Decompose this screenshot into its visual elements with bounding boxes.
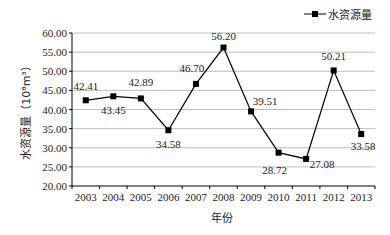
y-tick-label: 60.00 [42, 27, 67, 39]
y-tick-label: 40.00 [42, 104, 67, 116]
data-label: 27.08 [310, 158, 335, 170]
y-tick-label: 20.00 [42, 180, 67, 192]
data-point-marker [138, 95, 144, 101]
data-point-marker [303, 156, 309, 162]
x-tick-label: 2005 [130, 191, 153, 203]
x-axis-title: 年份 [211, 211, 233, 225]
y-tick-label: 50.00 [42, 65, 67, 77]
data-point-marker [276, 150, 282, 156]
data-label: 33.58 [351, 140, 376, 152]
data-label: 43.45 [101, 104, 126, 116]
data-point-marker [110, 93, 116, 99]
x-tick-label: 2010 [268, 191, 291, 203]
data-point-marker [83, 97, 89, 103]
series-line [86, 48, 361, 159]
x-tick-label: 2009 [240, 191, 263, 203]
y-tick-label: 45.00 [42, 84, 67, 96]
y-tick-label: 30.00 [42, 142, 67, 154]
x-tick-label: 2003 [75, 191, 98, 203]
y-tick-label: 55.00 [42, 46, 67, 58]
data-label: 42.89 [128, 76, 153, 88]
data-label: 46.70 [180, 62, 205, 74]
x-tick-label: 2013 [350, 191, 373, 203]
x-tick-label: 2012 [323, 191, 345, 203]
data-label: 42.41 [73, 80, 98, 92]
x-tick-label: 2004 [102, 191, 125, 203]
x-tick-label: 2006 [157, 191, 180, 203]
line-chart: 20.0025.0030.0035.0040.0045.0050.0055.00… [0, 0, 390, 235]
data-point-marker [331, 67, 337, 73]
data-label: 34.58 [156, 138, 181, 150]
data-point-marker [193, 81, 199, 87]
data-point-marker [165, 127, 171, 133]
y-tick-label: 35.00 [42, 123, 67, 135]
x-tick-label: 2007 [185, 191, 208, 203]
y-tick-label: 25.00 [42, 161, 67, 173]
data-label: 39.51 [253, 95, 278, 107]
data-label: 50.21 [321, 50, 346, 62]
x-tick-label: 2011 [295, 191, 317, 203]
y-axis-title: 水资源量（10⁸m³） [19, 60, 33, 160]
data-label: 28.72 [262, 164, 287, 176]
data-point-marker [248, 108, 254, 114]
data-label: 56.20 [211, 30, 236, 42]
data-point-marker [221, 45, 227, 51]
x-tick-label: 2008 [213, 191, 236, 203]
data-point-marker [358, 131, 364, 137]
